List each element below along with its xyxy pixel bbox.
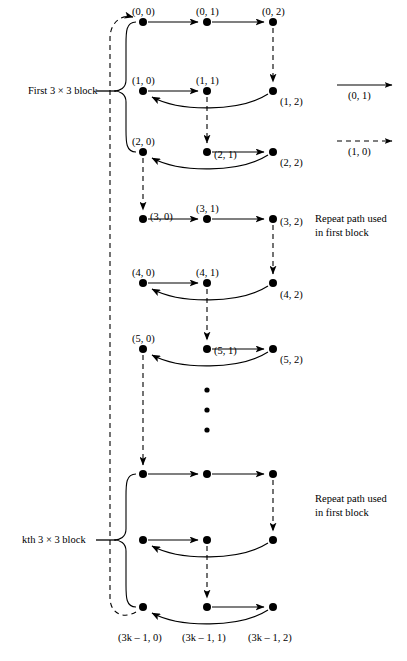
lattice-node-label: (5, 1) <box>214 344 237 357</box>
lattice-node-label: (5, 2) <box>280 353 303 366</box>
lattice-node-label: (2, 1) <box>214 148 237 161</box>
block-1-edges <box>143 22 273 210</box>
vertical-ellipsis-dot <box>204 387 209 392</box>
lattice-node-label: (1, 1) <box>196 74 219 87</box>
lattice-node-dot <box>139 87 147 95</box>
annotation-repeat-1: Repeat path used in first block <box>315 212 387 240</box>
annotation-repeat-1-line2: in first block <box>315 226 387 240</box>
brace-kth-block <box>114 474 136 607</box>
lattice-node-label: (3k – 1, 2) <box>248 631 292 644</box>
lattice-node-dot <box>203 345 211 353</box>
edge-dashed-wrap-bottom-to-top <box>110 16 136 615</box>
lattice-node-label: (4, 0) <box>132 266 155 279</box>
lattice-node-dot <box>139 536 147 544</box>
node-dot-group <box>139 18 277 611</box>
ellipsis-dot-group <box>204 387 209 432</box>
lattice-node-label: (2, 0) <box>132 135 155 148</box>
annotation-repeat-1-line1: Repeat path used <box>315 212 387 226</box>
lattice-node-dot <box>203 279 211 287</box>
lattice-node-label: (1, 2) <box>280 95 303 108</box>
lattice-node-label: (5, 0) <box>132 332 155 345</box>
lattice-node-label: (3, 2) <box>280 215 303 228</box>
block-k-edges <box>148 474 273 624</box>
lattice-node-dot <box>269 215 277 223</box>
legend-dashed-label: (1, 0) <box>348 145 371 158</box>
lattice-node-dot <box>139 345 147 353</box>
lattice-node-label: (3, 1) <box>196 202 219 215</box>
kth-block-brace <box>96 474 136 607</box>
lattice-node-label: (1, 0) <box>132 74 155 87</box>
vertical-ellipsis-dot <box>204 407 209 412</box>
lattice-node-dot <box>269 536 277 544</box>
first-block-label: First 3 × 3 block <box>28 84 98 97</box>
edge-curve-rk1c2-rk1c0 <box>152 543 268 557</box>
lattice-node-dot <box>139 18 147 26</box>
annotation-repeat-2-line2: in first block <box>315 506 387 520</box>
first-block-brace <box>96 22 136 152</box>
lattice-node-label: (0, 0) <box>132 5 155 18</box>
lattice-node-dot <box>139 215 147 223</box>
lattice-node-dot <box>139 279 147 287</box>
lattice-node-label: (0, 2) <box>262 5 285 18</box>
lattice-node-dot <box>269 87 277 95</box>
lattice-node-dot <box>269 603 277 611</box>
lattice-node-dot <box>269 148 277 156</box>
lattice-node-dot <box>203 536 211 544</box>
lattice-node-dot <box>269 345 277 353</box>
lattice-node-label: (4, 1) <box>196 266 219 279</box>
edge-curve-r2c2-r2c0 <box>152 155 268 169</box>
lattice-node-dot <box>203 18 211 26</box>
lattice-node-label: (3k – 1, 1) <box>182 631 226 644</box>
annotation-repeat-2-line1: Repeat path used <box>315 492 387 506</box>
lattice-node-dot <box>203 87 211 95</box>
edge-curve-r4c2-r4c0 <box>152 286 268 300</box>
lattice-node-dot <box>269 279 277 287</box>
lattice-node-label: (3k – 1, 0) <box>118 631 162 644</box>
kth-block-label-rest: th 3 × 3 block <box>27 534 85 545</box>
legend-solid-label: (0, 1) <box>348 89 371 102</box>
annotation-repeat-2: Repeat path used in first block <box>315 492 387 520</box>
lattice-node-dot <box>139 470 147 478</box>
wraparound-dashed-return <box>110 16 136 615</box>
edge-curve-r1c2-r1c0 <box>152 94 268 108</box>
lattice-node-dot <box>203 148 211 156</box>
lattice-node-dot <box>203 215 211 223</box>
lattice-node-dot <box>139 148 147 156</box>
lattice-node-dot <box>203 470 211 478</box>
lattice-path-figure: (0, 0)(0, 1)(0, 2)(1, 0)(1, 1)(1, 2)(2, … <box>0 0 407 661</box>
lattice-node-label: (2, 2) <box>280 156 303 169</box>
vertical-ellipsis-dot <box>204 427 209 432</box>
lattice-node-dot <box>269 18 277 26</box>
lattice-node-dot <box>139 603 147 611</box>
edge-curve-rk2c2-rk2c0 <box>152 610 268 624</box>
edge-curve-r5c2-r5c0 <box>152 352 268 366</box>
lattice-node-dot <box>269 470 277 478</box>
lattice-node-label: (0, 1) <box>196 5 219 18</box>
diagram-canvas <box>0 0 407 661</box>
lattice-node-dot <box>203 603 211 611</box>
kth-block-label: kth 3 × 3 block <box>22 533 86 546</box>
lattice-node-label: (3, 0) <box>150 210 173 223</box>
lattice-node-label: (4, 2) <box>280 288 303 301</box>
